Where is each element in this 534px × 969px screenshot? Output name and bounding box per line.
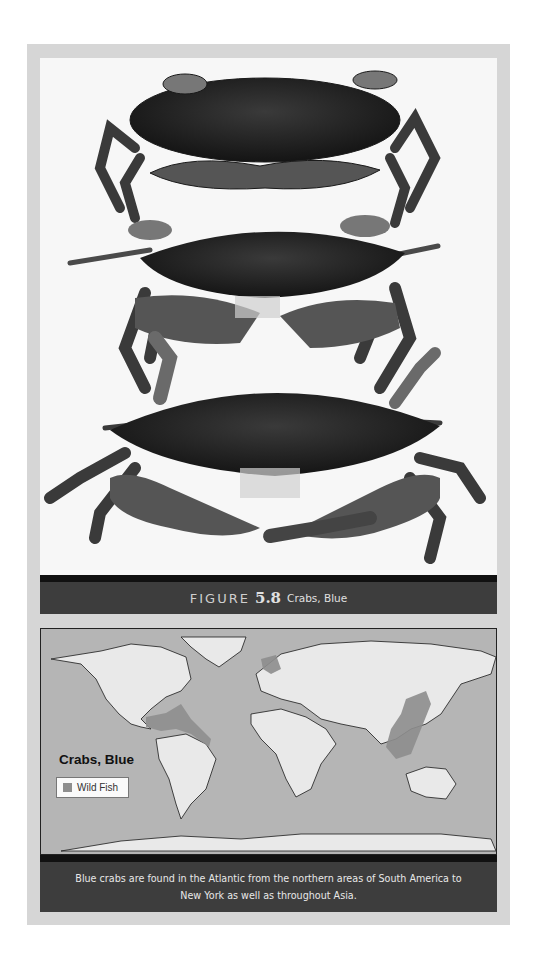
map-description: Blue crabs are found in the Atlantic fro… (40, 862, 497, 912)
distribution-map: Crabs, Blue Wild Fish (40, 628, 497, 855)
description-line-2: New York as well as throughout Asia. (180, 887, 357, 904)
crab-bottom (50, 338, 480, 558)
map-legend: Wild Fish (56, 777, 129, 798)
photo-divider (40, 575, 497, 582)
description-line-1: Blue crabs are found in the Atlantic fro… (75, 870, 461, 887)
crabs-illustration (40, 58, 497, 575)
world-map (41, 629, 497, 855)
legend-swatch-wild-fish (63, 783, 72, 792)
map-title: Crabs, Blue (59, 752, 134, 767)
figure-number: 5.8 (255, 589, 281, 607)
crab-middle (70, 215, 438, 388)
map-divider (40, 855, 497, 862)
legend-label-wild-fish: Wild Fish (77, 782, 118, 793)
figure-caption: FIGURE 5.8 Crabs, Blue (40, 582, 497, 614)
figure-frame: FIGURE 5.8 Crabs, Blue (27, 44, 510, 925)
figure-label: FIGURE (190, 591, 250, 606)
crab-top (100, 71, 435, 223)
figure-title: Crabs, Blue (287, 592, 347, 604)
crab-photo (40, 58, 497, 575)
